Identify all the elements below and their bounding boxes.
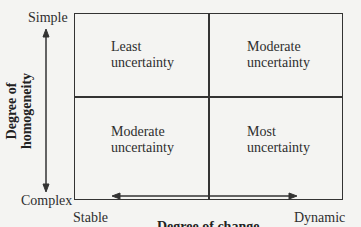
horizontal-double-arrow-icon [112, 193, 297, 199]
vertical-double-arrow-icon [43, 29, 49, 192]
axis-arrows [0, 0, 361, 227]
